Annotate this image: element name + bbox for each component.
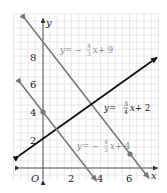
xtick-6: 6	[126, 173, 132, 184]
equation-label-neg43x-plus9: y = − 4 3 x + 9	[59, 42, 113, 57]
svg-text:+ 9: + 9	[98, 45, 113, 55]
svg-text:+ 2: + 2	[135, 103, 150, 113]
y-axis-label: y	[45, 17, 52, 28]
svg-text:=: =	[109, 103, 116, 113]
svg-text:3: 3	[124, 100, 128, 107]
ytick-2: 2	[30, 135, 36, 146]
point-6-1	[127, 151, 132, 156]
equation-label-neg43x-plus4: y = − 4 3 x + 4	[76, 138, 130, 153]
equation-label-34x-plus2: y = 3 4 x + 2	[103, 100, 150, 115]
svg-text:3: 3	[87, 50, 91, 57]
svg-text:= −: = −	[65, 45, 82, 55]
svg-text:3: 3	[104, 146, 108, 153]
xtick-4: 4	[97, 173, 103, 184]
xtick-2: 2	[68, 173, 74, 184]
svg-text:+ 4: + 4	[115, 141, 130, 151]
svg-text:4: 4	[104, 138, 108, 145]
line-neg43x-plus4	[21, 84, 96, 181]
point-0-4	[40, 109, 45, 114]
svg-text:= −: = −	[82, 141, 99, 151]
ytick-8: 8	[30, 52, 36, 63]
origin-label: O	[31, 173, 39, 184]
coordinate-plane: 8 6 4 2 2 4 6 O x y y = − 4 3 x + 9 y = …	[0, 0, 167, 193]
svg-text:4: 4	[124, 108, 128, 115]
ytick-6: 6	[30, 79, 36, 90]
ytick-4: 4	[30, 107, 36, 118]
x-axis-label: x	[151, 170, 157, 181]
svg-text:4: 4	[87, 42, 91, 49]
